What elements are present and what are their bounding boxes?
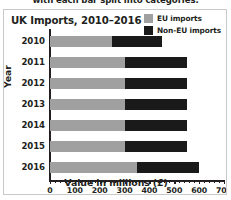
bar-segment-non-eu <box>125 141 187 152</box>
bar-row: 2013 <box>50 99 187 110</box>
legend-label-eu: EU imports <box>157 14 202 23</box>
x-axis-title: Value in millions (£) <box>4 177 227 188</box>
bar-segment-non-eu <box>137 162 199 173</box>
bar-segment-non-eu <box>112 36 162 47</box>
y-tick-label: 2010 <box>21 36 45 47</box>
chart-screenshot: with each bar split into categories. UK … <box>0 0 231 200</box>
bottom-sliver <box>3 197 227 200</box>
bar-segment-eu <box>50 162 137 173</box>
bar-row: 2016 <box>50 162 199 173</box>
legend-swatch-eu-icon <box>144 14 153 23</box>
plot-area: 2010201120122013201420152016 01002003004… <box>50 31 224 178</box>
top-caption-text: with each bar split into categories. <box>0 0 231 6</box>
bar-segment-non-eu <box>125 57 187 68</box>
bar-row: 2010 <box>50 36 162 47</box>
bar-segment-eu <box>50 99 125 110</box>
y-tick-label: 2014 <box>21 120 45 131</box>
bar-segment-non-eu <box>125 120 187 131</box>
bar-segment-eu <box>50 120 125 131</box>
bar-segment-eu <box>50 78 125 89</box>
y-tick-label: 2011 <box>21 57 45 68</box>
chart-card: UK Imports, 2010–2016 EU imports Non-EU … <box>3 9 227 195</box>
bar-segment-eu <box>50 141 125 152</box>
bar-segment-non-eu <box>125 99 187 110</box>
bar-series-layer: 2010201120122013201420152016 <box>50 31 224 178</box>
legend-item-eu-imports: EU imports <box>144 13 221 23</box>
chart-title: UK Imports, 2010–2016 <box>11 15 141 26</box>
bar-row: 2015 <box>50 141 187 152</box>
y-tick-label: 2012 <box>21 78 45 89</box>
bar-segment-eu <box>50 57 125 68</box>
y-tick-label: 2013 <box>21 99 45 110</box>
bar-row: 2014 <box>50 120 187 131</box>
y-tick-label: 2015 <box>21 141 45 152</box>
y-tick-label: 2016 <box>21 162 45 173</box>
bar-segment-eu <box>50 36 112 47</box>
top-caption: with each bar split into categories. <box>0 0 231 6</box>
bar-row: 2012 <box>50 78 187 89</box>
y-axis-title: Year <box>3 65 13 88</box>
bar-segment-non-eu <box>125 78 187 89</box>
bar-row: 2011 <box>50 57 187 68</box>
